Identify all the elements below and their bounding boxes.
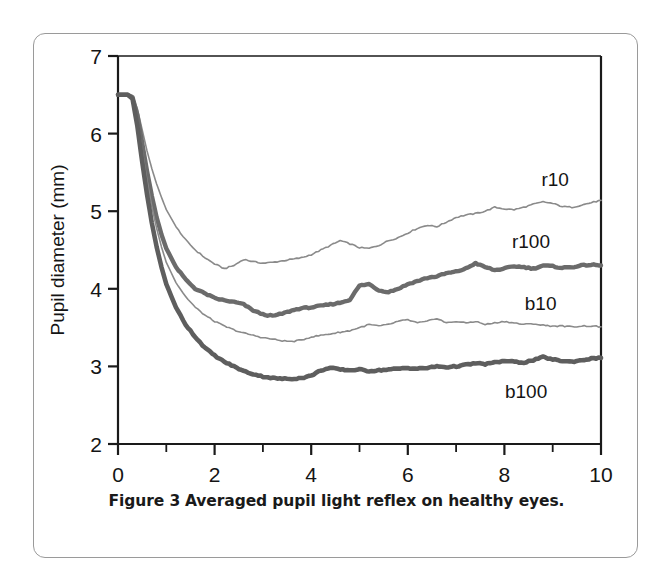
y-axis-ticks: 234567 [90,45,118,456]
series-label-b100: b100 [505,381,547,402]
series-label-r10: r10 [541,169,568,190]
y-tick-label: 2 [90,433,102,456]
y-tick-label: 3 [90,355,102,378]
series-label-r100: r100 [512,231,550,252]
chart-plot-area: 2345670246810Duration (sec.)Pupil diamet… [34,34,639,494]
series-label-b10: b10 [525,293,557,314]
x-tick-label: 10 [589,463,612,486]
x-tick-label: 4 [305,463,317,486]
x-tick-label: 6 [402,463,414,486]
x-axis-ticks: 0246810 [112,444,613,486]
figure-caption-text: Averaged pupil light reflex on healthy e… [185,492,564,510]
y-tick-label: 7 [90,45,102,68]
y-axis-title: Pupil diameter (mm) [47,164,68,335]
y-tick-label: 5 [90,200,102,223]
y-tick-label: 6 [90,123,102,146]
figure-caption: Figure 3 Averaged pupil light reflex on … [34,492,639,510]
x-tick-label: 0 [112,463,124,486]
y-tick-label: 4 [90,278,102,301]
figure-caption-label: Figure 3 [109,492,181,510]
pupil-light-reflex-line-chart: 2345670246810Duration (sec.)Pupil diamet… [34,34,639,494]
x-tick-label: 8 [499,463,511,486]
figure-card: 2345670246810Duration (sec.)Pupil diamet… [33,33,638,558]
x-tick-label: 2 [209,463,221,486]
